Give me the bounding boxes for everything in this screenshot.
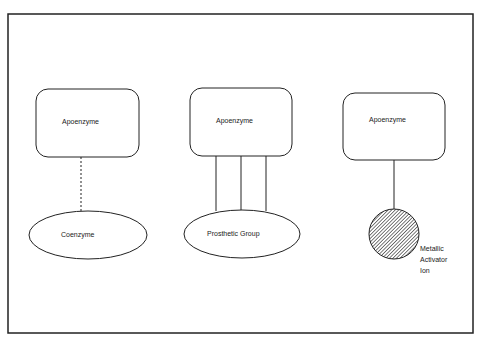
- metallic-label-line-1: Metallic: [420, 245, 444, 252]
- coenzyme-label: Coenzyme: [61, 231, 95, 239]
- enzyme-diagram: Apoenzyme Coenzyme Apoenzyme Prosthetic …: [0, 0, 481, 343]
- metallic-label-line-2: Activator: [420, 256, 448, 263]
- apoenzyme-label-2: Apoenzyme: [216, 117, 253, 125]
- group-metallic-ion: Apoenzyme Metallic Activator Ion: [343, 93, 448, 274]
- group-coenzyme: Apoenzyme Coenzyme: [29, 89, 147, 259]
- apoenzyme-box-3: [343, 93, 445, 160]
- metallic-label-line-3: Ion: [420, 267, 430, 274]
- group-prosthetic: Apoenzyme Prosthetic Group: [184, 88, 300, 258]
- apoenzyme-label-1: Apoenzyme: [62, 118, 99, 126]
- apoenzyme-label-3: Apoenzyme: [369, 116, 406, 124]
- metallic-ion-circle: [369, 209, 419, 259]
- prosthetic-group-label: Prosthetic Group: [207, 230, 260, 238]
